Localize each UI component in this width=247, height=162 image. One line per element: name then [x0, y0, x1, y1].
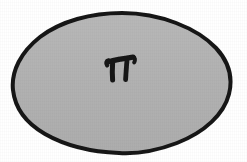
oval-outline [13, 13, 231, 153]
pi-left-serif [106, 60, 108, 65]
pi-right-leg [126, 61, 127, 80]
figure-svg [0, 0, 247, 162]
pi-right-serif [133, 57, 135, 62]
figure-canvas: Oval pi Grey oval containing the Greek l… [0, 0, 247, 162]
oval-shape [13, 13, 231, 153]
